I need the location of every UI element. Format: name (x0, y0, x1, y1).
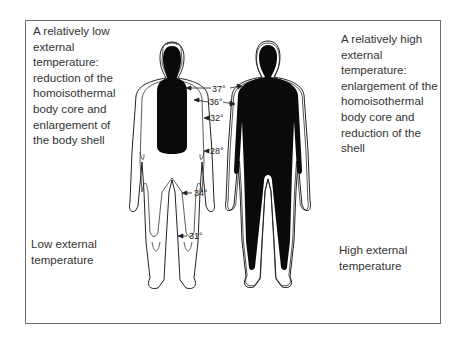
isotherm-label-28: 28° (210, 146, 224, 156)
body-temperature-diagram: 37° 36° 32° 28° 34° 31° (0, 0, 466, 347)
isotherm-label-36: 36° (209, 97, 223, 107)
isotherm-label-34: 34° (194, 188, 208, 198)
isotherm-label-37: 37° (212, 84, 226, 94)
isotherm-label-32: 32° (210, 113, 224, 123)
isotherm-label-31: 31° (189, 231, 203, 241)
high-temperature-body-figure (225, 41, 310, 288)
low-temperature-body-figure (129, 42, 214, 289)
